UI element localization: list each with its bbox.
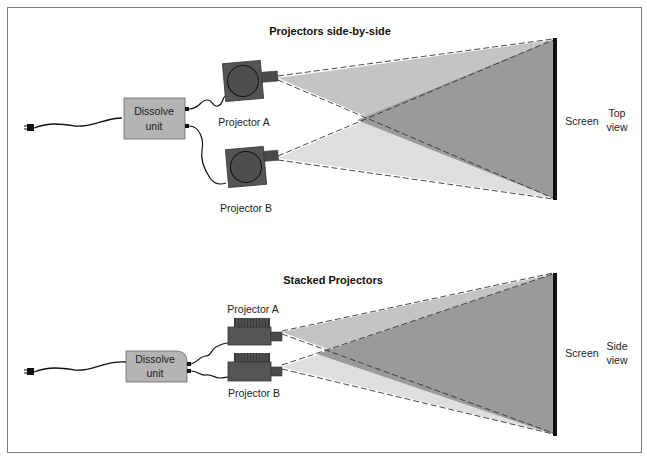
top-section-title: Projectors side-by-side	[269, 25, 391, 37]
projector-diagram: Projectors side-by-side Screen Top view …	[0, 0, 647, 464]
view-label-top-1: Top	[609, 107, 626, 119]
plug-icon-top	[27, 124, 34, 131]
plug-icon-bottom	[27, 368, 34, 375]
screen-label-top: Screen	[565, 115, 598, 127]
bottom-section-title: Stacked Projectors	[283, 274, 383, 286]
screen-bottom	[553, 273, 557, 436]
power-cord-bottom	[34, 362, 126, 372]
projector-a-bottom	[228, 318, 282, 345]
view-label-bottom-1: Side	[606, 340, 627, 352]
cable-b-top	[189, 126, 226, 184]
projector-b-bottom	[228, 353, 282, 381]
screen-label-bottom: Screen	[565, 347, 598, 359]
view-label-top-2: view	[606, 121, 627, 133]
power-cord-top	[34, 118, 122, 128]
dissolve-label-top-1: Dissolve	[134, 105, 174, 117]
view-label-bottom-2: view	[606, 354, 627, 366]
dissolve-label-bottom-2: unit	[147, 367, 164, 379]
projector-a-top	[222, 59, 279, 102]
cable-b-bottom	[191, 371, 228, 378]
cable-a-top	[189, 96, 226, 109]
dissolve-label-top-2: unit	[146, 120, 163, 132]
screen-top	[553, 38, 557, 200]
projector-a-label-bottom: Projector A	[227, 303, 278, 315]
bottom-section: Stacked Projectors Screen Side view Diss…	[24, 273, 628, 436]
dissolve-label-bottom-1: Dissolve	[135, 353, 175, 365]
projector-b-label-top: Projector B	[220, 202, 272, 214]
top-section: Projectors side-by-side Screen Top view …	[24, 25, 628, 214]
cable-a-bottom	[191, 343, 228, 364]
projector-b-label-bottom: Projector B	[228, 387, 280, 399]
projector-a-label-top: Projector A	[218, 116, 269, 128]
projector-b-top	[225, 145, 280, 187]
